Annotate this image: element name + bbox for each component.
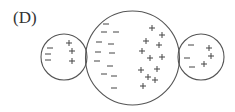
positive-charge-icon bbox=[206, 45, 212, 51]
positive-charge-icon bbox=[149, 25, 155, 31]
charged-spheres-diagram bbox=[0, 0, 235, 112]
positive-charge-icon bbox=[159, 54, 165, 60]
positive-charge-icon bbox=[201, 61, 207, 67]
positive-charge-icon bbox=[156, 42, 162, 48]
positive-charge-icon bbox=[69, 48, 75, 54]
positive-charge-icon bbox=[159, 32, 165, 38]
positive-charge-icon bbox=[145, 74, 151, 80]
right-sphere-outline bbox=[178, 34, 224, 80]
positive-charge-icon bbox=[66, 40, 72, 46]
positive-charge-icon bbox=[147, 55, 153, 61]
positive-charge-icon bbox=[139, 48, 145, 54]
right-sphere bbox=[178, 34, 224, 80]
center-sphere bbox=[86, 11, 180, 105]
left-sphere bbox=[41, 34, 87, 80]
left-sphere-outline bbox=[41, 34, 87, 80]
positive-charge-icon bbox=[152, 77, 158, 83]
positive-charge-icon bbox=[138, 67, 144, 73]
positive-charge-icon bbox=[208, 53, 214, 59]
positive-charge-icon bbox=[69, 58, 75, 64]
positive-charge-icon bbox=[154, 66, 160, 72]
center-sphere-outline bbox=[86, 11, 180, 105]
positive-charge-icon bbox=[143, 38, 149, 44]
positive-charge-icon bbox=[140, 83, 146, 89]
